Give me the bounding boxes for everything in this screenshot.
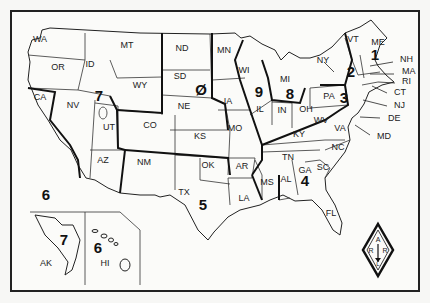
state-label-ar: AR (236, 161, 249, 171)
state-label-nh: NH (400, 54, 413, 64)
state-label-wy: WY (133, 80, 148, 90)
state-label-id: ID (86, 59, 96, 69)
state-label-sc: SC (317, 162, 330, 172)
state-label-ks: KS (194, 131, 206, 141)
state-label-ny: NY (317, 55, 330, 65)
logo-letter-left: R (368, 247, 373, 254)
inset-alaska-hawaii (30, 212, 140, 285)
state-label-oh: OH (299, 104, 313, 114)
state-label-in: IN (278, 105, 287, 115)
state-label-ri: RI (402, 76, 411, 86)
state-label-wa: WA (33, 34, 47, 44)
state-label-ok: OK (201, 160, 214, 170)
state-label-la: LA (238, 193, 249, 203)
state-label-fl: FL (326, 208, 337, 218)
state-label-or: OR (51, 62, 65, 72)
state-label-ky: KY (293, 129, 305, 139)
state-label-ut: UT (103, 122, 115, 132)
district-number-5: 6 (42, 186, 50, 203)
district-number-1: 2 (347, 63, 355, 80)
state-label-co: CO (143, 120, 157, 130)
state-label-ct: CT (394, 87, 406, 97)
state-label-nc: NC (332, 142, 345, 152)
state-label-wv: WV (314, 115, 329, 125)
state-label-ia: IA (224, 96, 233, 106)
state-label-nj: NJ (394, 100, 405, 110)
state-label-md: MD (377, 131, 391, 141)
state-label-tx: TX (178, 187, 190, 197)
district-number-8: 9 (255, 83, 263, 100)
district-number-10: 7 (60, 231, 68, 248)
district-number-0: 1 (371, 46, 379, 63)
state-label-mt: MT (121, 40, 134, 50)
state-label-ms: MS (260, 177, 274, 187)
state-labels: WAORCAIDNVMTWYUTAZCONMNDSDNEKSOKTXMNIAMO… (33, 34, 385, 268)
district-number-11: 6 (94, 239, 102, 256)
state-label-az: AZ (97, 155, 109, 165)
callout-labels: NHMARICTNJDEMD (377, 54, 416, 141)
arrl-logo: A R R L (363, 224, 393, 276)
state-label-ma: MA (402, 66, 416, 76)
state-label-ne: NE (178, 101, 191, 111)
state-label-nd: ND (176, 43, 189, 53)
state-label-wi: WI (239, 65, 250, 75)
district-number-4: 5 (199, 196, 207, 213)
state-label-mi: MI (280, 74, 290, 84)
state-label-nv: NV (67, 100, 80, 110)
state-label-mn: MN (217, 45, 231, 55)
district-numbers: 123456789Ø76 (42, 46, 379, 256)
state-label-ak: AK (40, 258, 52, 268)
state-label-nm: NM (137, 157, 151, 167)
district-number-9: Ø (195, 81, 207, 98)
state-label-va: VA (334, 123, 345, 133)
state-label-hi: HI (101, 258, 110, 268)
district-number-7: 8 (286, 85, 294, 102)
district-number-6: 7 (95, 87, 103, 104)
state-label-tn: TN (282, 152, 294, 162)
state-label-sd: SD (174, 71, 187, 81)
logo-letter-right: R (382, 247, 387, 254)
us-call-district-map: WAORCAIDNVMTWYUTAZCONMNDSDNEKSOKTXMNIAMO… (0, 0, 430, 303)
state-label-il: IL (256, 104, 264, 114)
state-label-de: DE (388, 113, 401, 123)
logo-letter-top: A (376, 236, 381, 243)
district-number-3: 4 (301, 172, 310, 189)
great-salt-lake (99, 107, 107, 119)
state-label-ca: CA (34, 92, 47, 102)
state-label-vt: VT (347, 34, 359, 44)
state-label-al: AL (280, 174, 291, 184)
state-label-pa: PA (323, 91, 334, 101)
district-number-2: 3 (340, 89, 348, 106)
state-label-mo: MO (228, 123, 243, 133)
